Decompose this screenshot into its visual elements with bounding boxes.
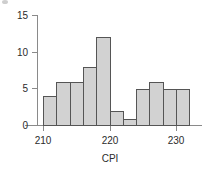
histogram-bar xyxy=(43,96,57,126)
y-tick-label-10: 10 xyxy=(8,48,28,58)
y-tick-mark-15 xyxy=(32,15,37,16)
x-tick-mark-220 xyxy=(110,126,111,131)
y-tick-label-15: 15 xyxy=(8,11,28,21)
histogram-bar xyxy=(96,37,111,126)
y-tick-label-0: 0 xyxy=(8,121,28,131)
histogram-bar xyxy=(163,89,177,126)
histogram-bar xyxy=(136,89,150,126)
x-axis-title: CPI xyxy=(80,154,140,164)
x-tick-label-220: 220 xyxy=(96,136,124,146)
histogram-bar xyxy=(56,82,71,126)
y-axis-line xyxy=(37,15,38,126)
y-tick-mark-10 xyxy=(32,52,37,53)
histogram-bar xyxy=(70,82,84,126)
x-tick-mark-230 xyxy=(176,126,177,131)
histogram-chart: 15 10 5 0 210 220 230 CPI xyxy=(0,0,208,173)
x-tick-label-230: 230 xyxy=(162,136,190,146)
histogram-bar xyxy=(149,82,164,126)
histogram-bar xyxy=(110,111,124,126)
histogram-bar xyxy=(176,89,190,126)
histogram-bar xyxy=(83,67,97,126)
y-tick-mark-5 xyxy=(32,88,37,89)
histogram-bar xyxy=(123,119,137,126)
y-tick-mark-0 xyxy=(32,125,37,126)
corner-artifact xyxy=(2,0,8,4)
y-tick-label-5: 5 xyxy=(8,84,28,94)
x-tick-mark-210 xyxy=(43,126,44,131)
x-tick-label-210: 210 xyxy=(29,136,57,146)
